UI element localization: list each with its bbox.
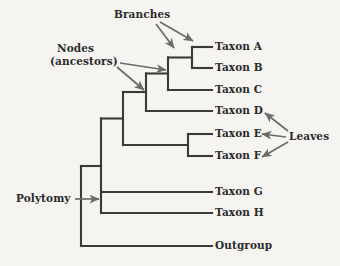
annotation-label-nodes: Nodes — [57, 42, 94, 55]
taxon-label-taxon-b: Taxon B — [215, 62, 263, 73]
phylogenetic-tree-diagram: Taxon A Taxon B Taxon C Taxon D Taxon E … — [0, 0, 340, 266]
taxon-label-outgroup: Outgroup — [215, 240, 272, 251]
tree-branch-lines — [81, 47, 212, 246]
taxon-label-taxon-g: Taxon G — [215, 186, 263, 197]
taxon-label-taxon-f: Taxon F — [215, 150, 261, 161]
annotation-label-nodes-ancestors: (ancestors) — [50, 55, 118, 68]
taxon-label-taxon-c: Taxon C — [215, 84, 262, 95]
taxon-label-taxon-h: Taxon H — [215, 207, 264, 218]
taxon-label-taxon-d: Taxon D — [215, 105, 263, 116]
arrow-leaves-to-taxon-f — [262, 142, 288, 157]
arrow-nodes-to-clade-abcd — [117, 67, 144, 90]
annotation-label-polytomy: Polytomy — [16, 192, 71, 204]
taxon-label-taxon-e: Taxon E — [215, 128, 262, 139]
annotation-label-leaves: Leaves — [289, 130, 329, 142]
taxon-label-taxon-a: Taxon A — [215, 41, 262, 52]
arrow-nodes-to-clade-abc — [120, 63, 166, 70]
annotation-label-branches: Branches — [114, 8, 170, 20]
arrow-leaves-to-taxon-d — [265, 113, 288, 131]
arrow-leaves-to-taxon-e — [262, 134, 286, 137]
arrow-branches-to-tip — [160, 22, 193, 41]
